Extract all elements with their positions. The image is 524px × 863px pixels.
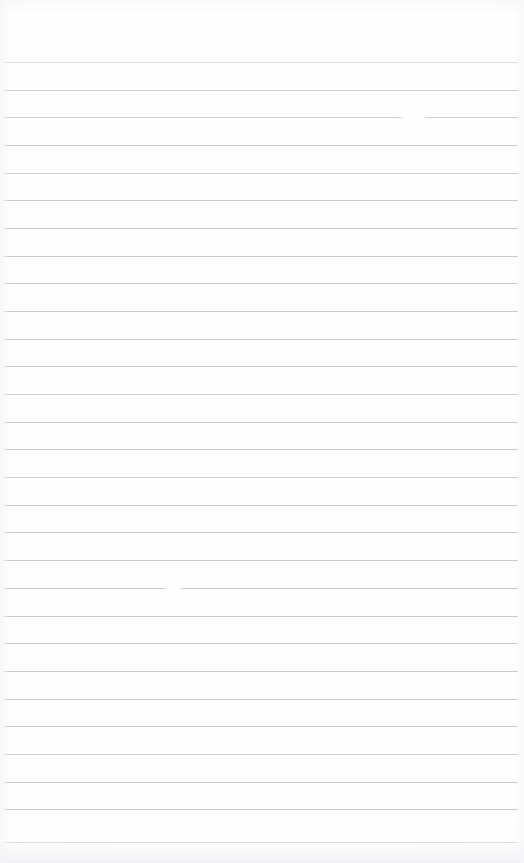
- ruled-line: [4, 726, 518, 727]
- ruled-lines-layer: [0, 0, 524, 863]
- ruled-line: [4, 117, 518, 118]
- ruled-line: [4, 477, 518, 478]
- ruled-line: [4, 366, 518, 367]
- ruled-line: [4, 671, 518, 672]
- ruled-line: [4, 173, 518, 174]
- ruled-line: [4, 283, 518, 284]
- ruled-line: [4, 394, 518, 395]
- ruled-line: [4, 782, 518, 783]
- ruled-line: [4, 643, 518, 644]
- scan-line-break: [163, 587, 183, 590]
- ruled-line: [4, 699, 518, 700]
- ruled-line: [4, 505, 518, 506]
- ruled-line: [4, 339, 518, 340]
- ruled-line: [4, 145, 518, 146]
- ruled-line: [4, 588, 518, 589]
- ruled-line: [4, 809, 518, 810]
- ruled-line: [4, 228, 518, 229]
- ruled-line: [4, 311, 518, 312]
- ruled-line: [4, 256, 518, 257]
- ruled-line: [4, 62, 518, 63]
- ruled-line: [4, 422, 518, 423]
- ruled-line: [4, 616, 518, 617]
- ruled-line: [4, 754, 518, 755]
- ruled-line: [4, 560, 518, 561]
- scan-line-break: [398, 116, 428, 119]
- ruled-line: [4, 90, 518, 91]
- ruled-line: [4, 532, 518, 533]
- ruled-line: [4, 842, 518, 843]
- ruled-line: [4, 200, 518, 201]
- ruled-line: [4, 449, 518, 450]
- lined-paper-page: Blank Ruled Notebook Page Scanned blank …: [0, 0, 524, 863]
